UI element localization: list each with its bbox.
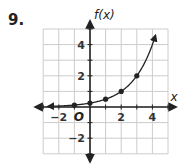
grid: [43, 29, 168, 154]
data-point: [87, 101, 92, 106]
origin-label: O: [74, 110, 84, 124]
exponential-graph: −22442−2Oxf(x): [0, 0, 189, 168]
data-point: [134, 73, 139, 78]
x-tick-label: 2: [117, 111, 125, 124]
x-tick-label: −2: [50, 111, 67, 124]
y-tick-label: 4: [77, 39, 85, 52]
y-tick-label: −2: [68, 132, 85, 145]
exponential-curve: [48, 35, 156, 106]
y-tick-label: 2: [77, 70, 85, 83]
x-tick-label: 4: [149, 111, 157, 124]
x-axis-label: x: [169, 90, 178, 104]
data-point: [119, 89, 124, 94]
y-axis-label: f(x): [94, 8, 115, 22]
data-point: [103, 97, 108, 102]
curve-layer: [48, 35, 156, 107]
data-point: [72, 102, 77, 107]
